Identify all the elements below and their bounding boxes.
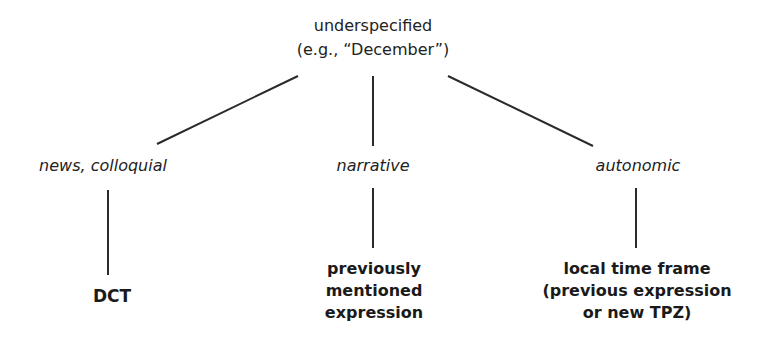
edge-root-to-news-colloquial: [157, 76, 298, 144]
edge-root-to-autonomic: [448, 76, 593, 146]
leaf-label-line: or new TPZ): [542, 302, 731, 324]
category-narrative: narrative: [337, 156, 410, 176]
leaf-label-line: mentioned: [325, 280, 423, 302]
category-label: narrative: [337, 156, 410, 175]
leaf-label-line: (previous expression: [542, 280, 731, 302]
root-label-line2: (e.g., “December”): [297, 38, 450, 62]
category-autonomic: autonomic: [596, 156, 681, 176]
leaf-label-line: local time frame: [542, 258, 731, 280]
leaf-label-line: DCT: [93, 285, 131, 307]
leaf-local-time-frame: local time frame (previous expression or…: [542, 258, 731, 324]
leaf-label-line: previously: [325, 258, 423, 280]
leaf-dct: DCT: [93, 285, 131, 307]
category-label: news, colloquial: [39, 156, 167, 175]
root-node: underspecified (e.g., “December”): [297, 14, 450, 62]
leaf-label-line: expression: [325, 302, 423, 324]
root-label-line1: underspecified: [297, 14, 450, 38]
leaf-previously-mentioned-expression: previously mentioned expression: [325, 258, 423, 324]
category-news-colloquial: news, colloquial: [39, 156, 167, 176]
category-label: autonomic: [596, 156, 681, 175]
